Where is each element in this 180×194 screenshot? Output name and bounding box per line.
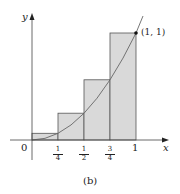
- tick-label-half: 1 2: [79, 146, 89, 162]
- tick-label-quarter: 1 4: [53, 146, 63, 162]
- rectangle-4: [110, 33, 136, 140]
- y-axis-label: y: [22, 12, 28, 22]
- tick-label-1: 1: [132, 143, 138, 153]
- x-axis-label: x: [163, 143, 169, 153]
- tick-den: 4: [53, 155, 63, 163]
- tick-den: 4: [105, 155, 115, 163]
- origin-label: 0: [21, 143, 27, 153]
- y-axis-arrow-icon: [30, 13, 35, 20]
- figure-caption: (b): [83, 176, 97, 186]
- rectangle-1: [32, 133, 58, 140]
- point-label: (1, 1): [141, 28, 165, 37]
- tick-den: 2: [79, 155, 89, 163]
- rectangle-3: [84, 80, 110, 140]
- point-1-1: [134, 31, 138, 35]
- tick-label-three-quarters: 3 4: [105, 146, 115, 162]
